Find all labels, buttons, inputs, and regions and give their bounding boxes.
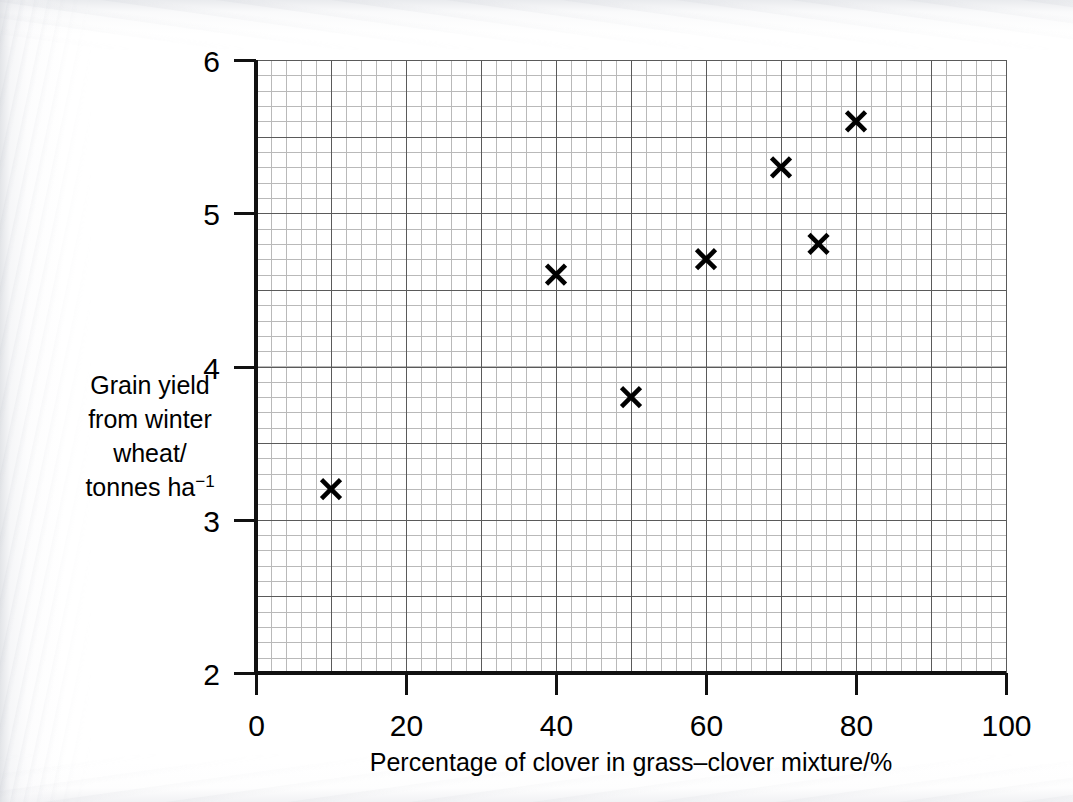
y-axis-title-line-2: from winter (88, 405, 212, 433)
y-axis-tick-label: 3 (203, 505, 220, 538)
x-axis-tick-label: 40 (540, 709, 573, 742)
x-axis-tick-label: 100 (981, 709, 1031, 742)
y-axis-tick-label: 2 (203, 658, 220, 691)
y-axis-tick-label: 6 (203, 45, 220, 78)
y-axis-title-line-1: Grain yield (90, 371, 210, 399)
x-axis-tick-label: 60 (690, 709, 723, 742)
x-axis-title: Percentage of clover in grass–clover mix… (370, 748, 892, 776)
x-axis-ticks (257, 673, 1007, 695)
x-axis-tick-label: 0 (248, 709, 265, 742)
y-axis-title-line-4-text: tonnes ha (85, 473, 195, 501)
y-axis-tick-labels: 23456 (203, 45, 220, 691)
y-axis-title: Grain yield from winter wheat/ tonnes ha… (85, 371, 214, 501)
y-axis-title-superscript: −1 (195, 472, 214, 491)
y-axis-title-line-4: tonnes ha−1 (85, 472, 214, 501)
x-axis-tick-labels: 020406080100 (248, 709, 1031, 742)
y-axis-ticks (234, 61, 256, 674)
y-axis-tick-label: 5 (203, 198, 220, 231)
scatter-plot-figure: 020406080100 23456 Percentage of clover … (0, 0, 1073, 802)
chart-canvas: 020406080100 23456 Percentage of clover … (0, 0, 1073, 802)
x-axis-tick-label: 20 (390, 709, 423, 742)
y-axis-title-line-3: wheat/ (112, 439, 187, 467)
x-axis-tick-label: 80 (840, 709, 873, 742)
